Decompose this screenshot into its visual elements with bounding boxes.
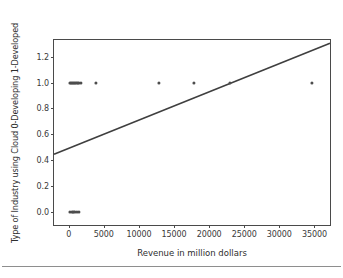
- x-axis-tick: [314, 225, 315, 228]
- x-axis-tick-label: 30000: [267, 230, 292, 239]
- scatter-point: [95, 81, 98, 84]
- y-axis-tick: [51, 160, 54, 161]
- x-axis-label: Revenue in million dollars: [53, 248, 331, 258]
- plot-area: 050001000015000200002500030000350000.00.…: [53, 39, 331, 226]
- x-axis-tick: [174, 225, 175, 228]
- x-axis-tick: [139, 225, 140, 228]
- x-axis-tick: [244, 225, 245, 228]
- scatter-point: [79, 81, 82, 84]
- y-axis-tick-label: 1.0: [37, 78, 49, 87]
- x-axis-tick-label: 25000: [232, 230, 257, 239]
- x-axis-tick: [104, 225, 105, 228]
- y-axis-tick: [51, 108, 54, 109]
- page-divider-rule: [2, 266, 341, 267]
- y-axis-tick-label: 1.2: [37, 52, 49, 61]
- y-axis-tick-label: 0.2: [37, 181, 49, 190]
- y-axis-tick-label: 0.4: [37, 155, 49, 164]
- scatter-point: [192, 81, 195, 84]
- x-axis-tick: [69, 225, 70, 228]
- data-points-layer: [54, 40, 330, 225]
- x-axis-tick: [279, 225, 280, 228]
- y-axis-tick: [51, 212, 54, 213]
- scatter-point: [77, 210, 80, 213]
- y-axis-tick-label: 0.8: [37, 104, 49, 113]
- y-axis-tick: [51, 134, 54, 135]
- y-axis-label: Type of Industry using Cloud 0-Developin…: [10, 22, 20, 242]
- scatter-point: [228, 81, 231, 84]
- x-axis-tick-label: 20000: [197, 230, 222, 239]
- y-axis-tick: [51, 83, 54, 84]
- scatter-plot-figure: Type of Industry using Cloud 0-Developin…: [0, 0, 343, 278]
- x-axis-tick-label: 5000: [94, 230, 114, 239]
- y-axis-tick: [51, 186, 54, 187]
- y-axis-tick: [51, 57, 54, 58]
- x-axis-tick-label: 10000: [126, 230, 151, 239]
- scatter-point: [157, 81, 160, 84]
- y-axis-tick-label: 0.6: [37, 130, 49, 139]
- x-axis-tick: [209, 225, 210, 228]
- y-axis-tick-label: 0.0: [37, 207, 49, 216]
- x-axis-tick-label: 35000: [302, 230, 327, 239]
- x-axis-tick-label: 15000: [162, 230, 187, 239]
- y-axis-label-container: Type of Industry using Cloud 0-Developin…: [8, 39, 22, 226]
- scatter-point: [310, 81, 313, 84]
- x-axis-tick-label: 0: [66, 230, 71, 239]
